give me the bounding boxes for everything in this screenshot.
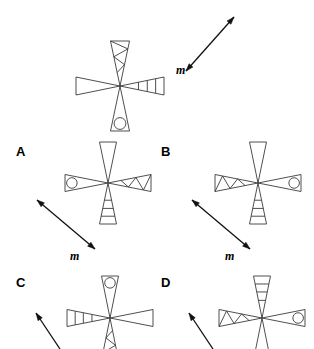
option-pinwheel-c[interactable] <box>67 276 153 349</box>
reference-mirror-label: m <box>176 63 185 78</box>
pinwheel-arm-up <box>250 142 267 183</box>
option-c-mirror-arrow-head-start <box>36 313 42 321</box>
diagram-svg <box>0 0 314 349</box>
pinwheel-arm-right <box>262 310 305 327</box>
option-pinwheel-d[interactable] <box>219 276 305 349</box>
pinwheel-arm-down <box>100 183 117 224</box>
pinwheel-arm-down <box>111 86 130 131</box>
figure-canvas: mAmBmCD <box>0 0 314 349</box>
option-b-mirror-label: m <box>225 249 234 264</box>
pinwheel-arm-right <box>258 175 301 192</box>
pinwheel-arm-down <box>254 318 271 349</box>
pinwheel-arm-left <box>76 77 120 95</box>
option-label-b[interactable]: B <box>161 144 170 159</box>
pinwheel-arm-down <box>102 318 119 349</box>
option-pinwheel-b[interactable] <box>215 142 301 224</box>
pinwheel-arm-left <box>219 310 262 327</box>
option-b-mirror-arrow <box>192 200 250 249</box>
reference-mirror-arrow <box>186 17 234 71</box>
option-a-mirror-arrow <box>37 200 95 249</box>
option-a-mirror-label: m <box>70 249 79 264</box>
pinwheel-arm-right <box>120 77 164 95</box>
pinwheel-arm-left <box>215 175 258 192</box>
pinwheel-arm-down <box>250 183 267 224</box>
pinwheel-arm-up <box>254 276 271 318</box>
pinwheel-arm-up <box>100 142 117 183</box>
option-label-d[interactable]: D <box>161 275 170 290</box>
option-d-mirror-arrow <box>189 313 213 349</box>
option-b-mirror-arrow-line <box>192 200 250 249</box>
pinwheel-arm-left <box>67 310 110 327</box>
option-label-c[interactable]: C <box>16 275 25 290</box>
reference-pinwheel <box>76 41 164 131</box>
option-d-mirror-arrow-head-start <box>189 313 195 321</box>
pinwheel-arm-right <box>110 310 153 327</box>
option-label-a[interactable]: A <box>16 144 25 159</box>
pinwheel-arm-up <box>111 41 130 86</box>
pinwheel-arm-right <box>108 175 151 192</box>
option-pinwheel-a[interactable] <box>65 142 151 224</box>
pinwheel-arm-left <box>65 175 108 192</box>
reference-mirror-arrow-line <box>186 17 234 71</box>
option-a-mirror-arrow-line <box>37 200 95 249</box>
pinwheel-arm-up <box>102 276 119 318</box>
option-c-mirror-arrow <box>36 313 60 349</box>
